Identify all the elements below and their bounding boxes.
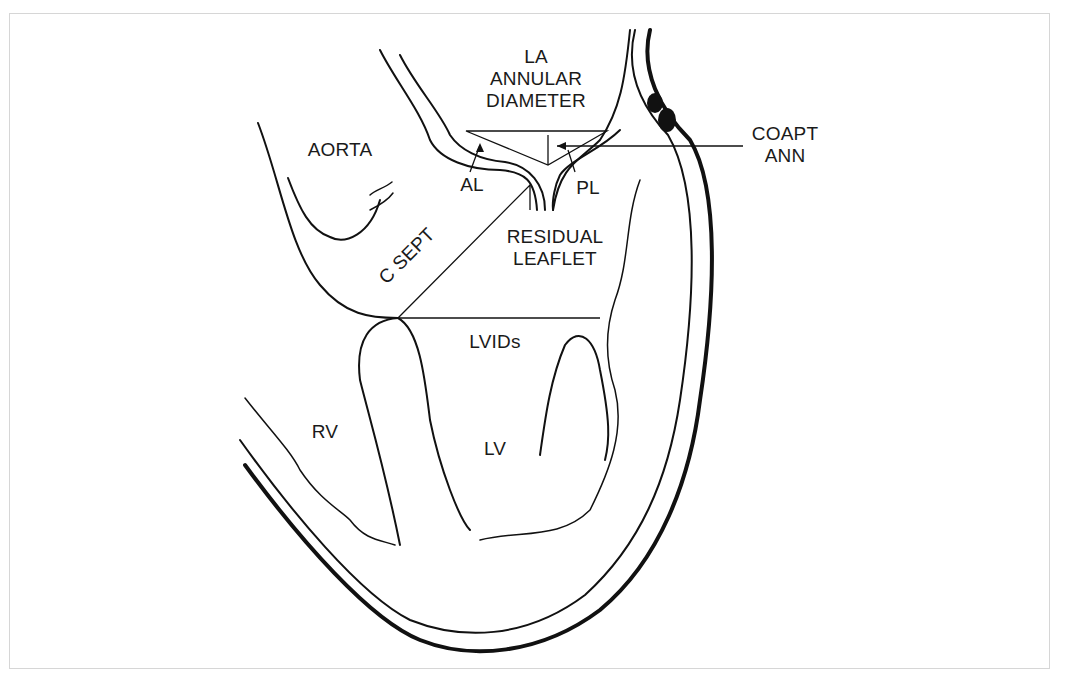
- label-al: AL: [452, 174, 492, 196]
- arrowhead-icon: [557, 142, 566, 150]
- label-la-annular-diameter: LA ANNULAR DIAMETER: [476, 46, 596, 112]
- label-rv: RV: [305, 421, 345, 443]
- label-residual-leaflet: RESIDUAL LEAFLET: [495, 226, 615, 270]
- circumflex-artery-icon: [658, 108, 676, 132]
- label-pl: PL: [568, 177, 608, 199]
- septum-left-edge: [359, 318, 400, 545]
- aortic-cusp-1: [370, 182, 392, 195]
- label-lvids: LVIDs: [455, 331, 535, 353]
- aortic-wall-inner: [288, 178, 380, 240]
- arrowhead-icon: [476, 143, 484, 152]
- papillary-muscle: [540, 336, 608, 460]
- label-lv: LV: [475, 438, 515, 460]
- coronary-sinus-icon: [647, 93, 663, 113]
- label-aorta: AORTA: [300, 139, 380, 161]
- label-coapt-ann: COAPT ANN: [745, 123, 825, 167]
- aortic-cusp-2: [370, 193, 393, 210]
